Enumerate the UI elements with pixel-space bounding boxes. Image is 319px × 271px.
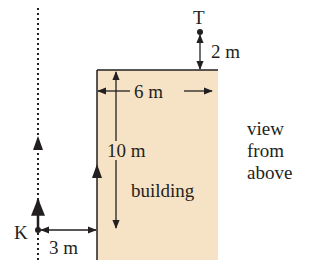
label-2m: 2 m bbox=[211, 42, 240, 61]
label-view: view bbox=[247, 119, 284, 138]
label-3m: 3 m bbox=[49, 238, 78, 257]
t-point bbox=[197, 29, 203, 35]
label-from: from bbox=[247, 141, 284, 160]
label-building: building bbox=[131, 181, 194, 200]
label-10m: 10 m bbox=[106, 141, 147, 160]
path-direction-arrow-icon bbox=[33, 136, 43, 150]
k-point bbox=[35, 227, 41, 233]
label-above: above bbox=[247, 163, 292, 182]
label-target-t: T bbox=[193, 8, 205, 27]
label-6m: 6 m bbox=[134, 82, 163, 101]
label-observer-k: K bbox=[14, 223, 28, 242]
